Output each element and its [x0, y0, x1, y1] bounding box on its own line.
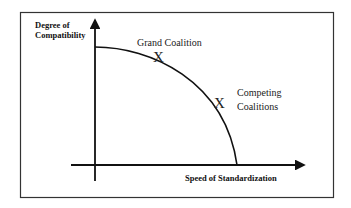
competing-coalitions-label-line1: Competing — [237, 87, 281, 98]
tradeoff-diagram: Degree of Compatibility Speed of Standar… — [0, 0, 351, 208]
grand-coalition-label: Grand Coalition — [137, 37, 202, 48]
competing-coalitions-label-line2: Coalitions — [237, 101, 278, 112]
competing-coalitions-x-marker: X — [214, 95, 225, 111]
y-axis-label-line1: Degree of — [35, 20, 70, 30]
grand-coalition-x-marker: X — [153, 49, 164, 65]
x-axis-label: Speed of Standardization — [185, 173, 277, 183]
y-axis-label-line2: Compatibility — [35, 30, 86, 40]
